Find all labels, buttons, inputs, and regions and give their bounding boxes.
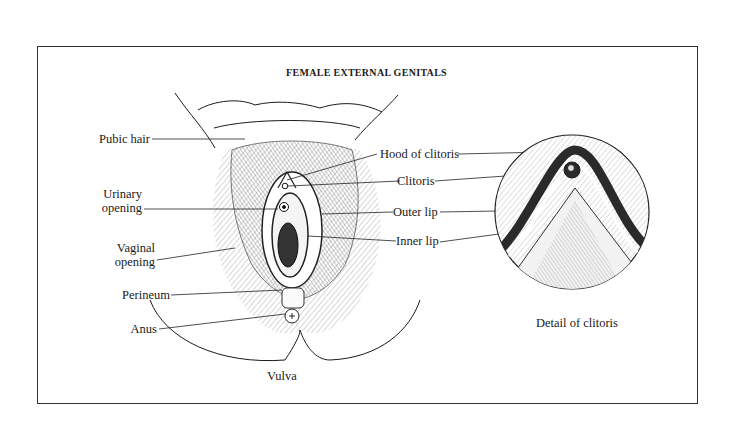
label-vaginal-opening-line2: opening bbox=[80, 255, 155, 269]
caption-detail-of-clitoris: Detail of clitoris bbox=[536, 316, 618, 331]
label-urinary-opening-line2: opening bbox=[70, 201, 142, 215]
label-vaginal-opening: Vaginal opening bbox=[80, 241, 155, 269]
label-vaginal-opening-line1: Vaginal bbox=[80, 241, 155, 255]
label-anus: Anus bbox=[95, 322, 157, 336]
clitoris-detail-illustration bbox=[490, 130, 660, 300]
vulva-illustration bbox=[150, 93, 420, 361]
label-clitoris: Clitoris bbox=[397, 174, 435, 188]
label-pubic-hair: Pubic hair bbox=[75, 132, 150, 146]
label-urinary-opening: Urinary opening bbox=[70, 187, 142, 215]
caption-vulva: Vulva bbox=[267, 369, 297, 384]
label-perineum: Perineum bbox=[85, 288, 170, 302]
label-urinary-opening-line1: Urinary bbox=[70, 187, 142, 201]
label-hood-of-clitoris: Hood of clitoris bbox=[380, 147, 459, 161]
anatomical-illustration bbox=[0, 0, 733, 434]
label-inner-lip: Inner lip bbox=[396, 234, 439, 248]
label-outer-lip: Outer lip bbox=[393, 205, 438, 219]
